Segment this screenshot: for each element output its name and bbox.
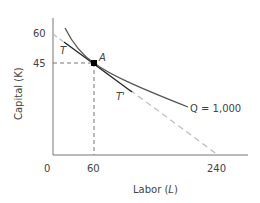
y-tick-60: 60 — [33, 28, 46, 39]
x-tick-240: 240 — [207, 163, 226, 174]
y-tick-45: 45 — [33, 58, 46, 69]
x-axis-title-main: Labor ( — [133, 184, 168, 195]
isoquant-label: Q = 1,000 — [190, 103, 241, 114]
isoquant-chart: 60 45 0 60 240 T A T' Q = 1,000 Capital … — [0, 0, 260, 203]
isoquant-curve — [65, 28, 188, 107]
x-axis-title-end: ) — [174, 184, 178, 195]
y-axis-title: Capital (K) — [13, 67, 24, 120]
x-tick-60: 60 — [87, 163, 100, 174]
label-a: A — [98, 52, 106, 63]
x-tick-origin: 0 — [44, 163, 50, 174]
tangent-line-tt-prime — [64, 42, 132, 92]
label-t: T — [60, 45, 67, 56]
point-a-marker — [91, 60, 97, 66]
x-axis-title: Labor (L) — [133, 184, 178, 195]
label-t-prime: T' — [116, 91, 125, 102]
tangent-line-dashed-lower — [130, 90, 218, 155]
